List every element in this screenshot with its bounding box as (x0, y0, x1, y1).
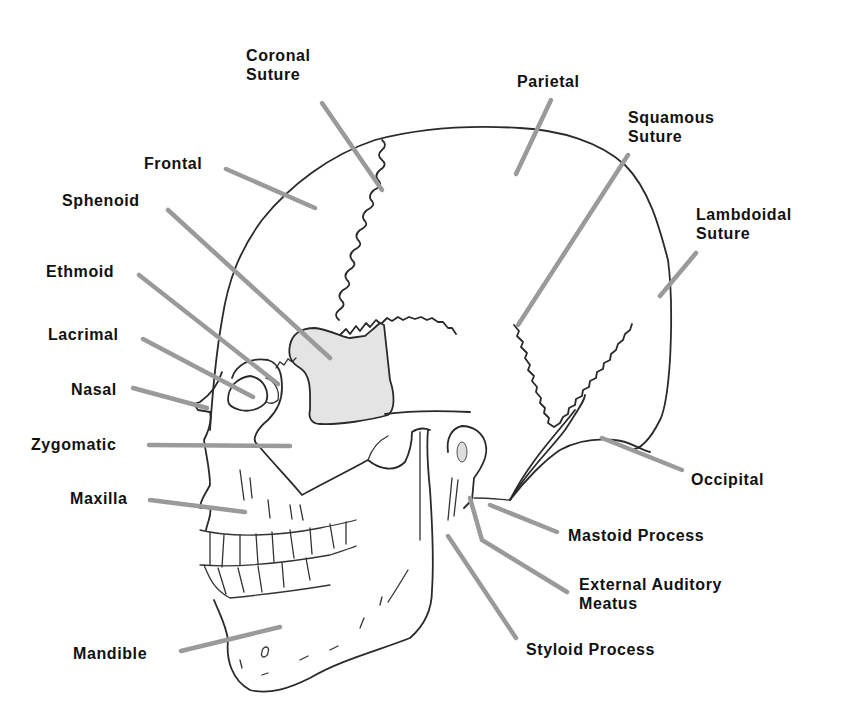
label-lambdoidal-line1: Lambdoidal (696, 205, 792, 224)
sphenoid-region (289, 323, 393, 424)
leader-styloid (448, 536, 516, 638)
leader-maxilla (150, 500, 245, 512)
mandible-marks (240, 597, 382, 675)
skull-drawing (0, 0, 847, 726)
leader-mastoid (490, 505, 557, 532)
coronal-suture-line (336, 140, 385, 320)
squamous-suture-line (340, 317, 456, 335)
leader-parietal (516, 100, 551, 174)
label-lambdoidal-line2: Suture (696, 224, 792, 243)
leader-sphenoid (168, 210, 330, 358)
label-sphenoid: Sphenoid (62, 191, 140, 210)
skull-diagram: Coronal Suture Parietal Squamous Suture … (0, 0, 847, 726)
label-eam-line1: External Auditory (579, 575, 722, 594)
ear-outline (448, 426, 487, 508)
leader-coronal (322, 103, 382, 190)
label-zygomatic: Zygomatic (31, 435, 116, 454)
leader-squamous (518, 155, 628, 325)
mandible-outline (214, 430, 433, 692)
label-coronal-line1: Coronal (246, 46, 311, 65)
label-eam-line2: Meatus (579, 594, 722, 613)
label-squamous-line2: Suture (628, 127, 715, 146)
mastoid-line (474, 498, 510, 500)
label-styloid-process: Styloid Process (526, 640, 655, 659)
temporal-process (368, 436, 388, 460)
leader-lambdoidal (660, 253, 696, 296)
label-frontal: Frontal (144, 154, 202, 173)
leader-frontal (226, 169, 315, 208)
label-squamous-line1: Squamous (628, 108, 715, 127)
leader-nasal (133, 388, 207, 408)
label-coronal-suture: Coronal Suture (246, 46, 311, 84)
leader-lacrimal (143, 339, 253, 397)
leader-external-auditory-meatus (470, 498, 567, 592)
label-occipital: Occipital (691, 470, 764, 489)
zygomatic-body (258, 429, 430, 495)
label-lacrimal: Lacrimal (48, 325, 119, 344)
leader-occipital (602, 438, 682, 470)
label-ethmoid: Ethmoid (46, 262, 114, 281)
mental-foramen (261, 647, 268, 657)
label-coronal-line2: Suture (246, 65, 311, 84)
label-lambdoidal-suture: Lambdoidal Suture (696, 205, 792, 243)
mandible-ramus (388, 432, 420, 602)
label-parietal: Parietal (517, 72, 580, 91)
label-squamous-suture: Squamous Suture (628, 108, 715, 146)
label-nasal: Nasal (71, 380, 117, 399)
styloid-line (448, 478, 458, 520)
label-mastoid-process: Mastoid Process (568, 526, 704, 545)
ear-canal (457, 442, 467, 462)
maxilla-lines (240, 470, 303, 520)
face-front (200, 412, 211, 530)
label-maxilla: Maxilla (70, 489, 128, 508)
leader-zygomatic (149, 445, 290, 446)
upper-teeth (200, 520, 356, 567)
zygomatic-arch (385, 411, 470, 414)
label-mandible: Mandible (73, 644, 147, 663)
label-external-auditory-meatus: External Auditory Meatus (579, 575, 722, 613)
